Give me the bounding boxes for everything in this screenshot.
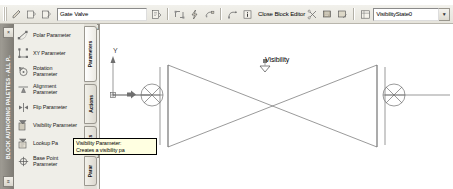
update-parameter-icon[interactable] bbox=[226, 8, 239, 21]
palette-item-rotation-parameter[interactable]: Rotation Parameter bbox=[14, 62, 84, 80]
palette-item-xy-parameter[interactable]: XY Parameter bbox=[14, 44, 84, 62]
base-point-parameter-icon bbox=[17, 155, 30, 168]
flip-parameter-icon bbox=[17, 101, 30, 114]
visibility-state-manager-icon[interactable] bbox=[359, 8, 372, 21]
palette-title-text: BLOCK AUTHORING PALETTES - ALL P.. bbox=[5, 55, 11, 159]
toolbar-separator-3 bbox=[353, 8, 355, 20]
parameter-icon[interactable] bbox=[173, 8, 186, 21]
palette-item-label: Visibility Parameter bbox=[33, 122, 77, 128]
tab-actions[interactable]: Actions bbox=[84, 84, 97, 124]
visibility-state-select[interactable]: VisibilityState0 bbox=[373, 8, 439, 21]
palette-properties-button[interactable]: ≡ bbox=[3, 176, 14, 187]
edit-block-definition-icon[interactable] bbox=[10, 8, 23, 21]
palette-item-label: Flip Parameter bbox=[33, 104, 67, 110]
palette-item-label: Alignment Parameter bbox=[33, 83, 57, 95]
make-invisible-icon[interactable] bbox=[321, 8, 334, 21]
block-name-input[interactable]: Gate Valve bbox=[57, 8, 147, 21]
alignment-parameter-icon bbox=[17, 83, 30, 96]
close-block-editor-button[interactable]: Close Block Editor bbox=[258, 11, 305, 17]
block-authoring-palettes: BLOCK AUTHORING PALETTES - ALL P.. × ≡ P… bbox=[0, 24, 100, 189]
palette-item-flip-parameter[interactable]: Flip Parameter bbox=[14, 98, 84, 116]
palette-tab-strip: Parameters Actions Sets Parar bbox=[84, 24, 97, 189]
make-visible-icon[interactable] bbox=[336, 8, 349, 21]
action-icon[interactable] bbox=[188, 8, 201, 21]
save-block-as-icon[interactable] bbox=[40, 8, 53, 21]
save-block-definition-icon[interactable] bbox=[25, 8, 38, 21]
tab-label: Parameters bbox=[88, 41, 94, 67]
toolbar-separator-2 bbox=[220, 8, 222, 20]
visibility-parameter-icon bbox=[17, 119, 30, 132]
visibility-states-icon[interactable] bbox=[306, 8, 319, 21]
authoring-palettes-icon[interactable] bbox=[150, 8, 163, 21]
palette-item-label: Base Point Parameter bbox=[33, 155, 58, 167]
palette-item-label: Polar Parameter bbox=[33, 32, 71, 38]
palette-item-alignment-parameter[interactable]: Alignment Parameter bbox=[14, 80, 84, 98]
learn-about-dynamic-blocks-icon[interactable] bbox=[241, 8, 254, 21]
palette-item-visibility-parameter[interactable]: Visibility Parameter bbox=[14, 116, 84, 134]
palette-item-label: Rotation Parameter bbox=[33, 65, 57, 77]
toolbar-drag-handle[interactable] bbox=[3, 7, 7, 21]
palette-item-list[interactable]: Polar Parameter XY Parameter bbox=[14, 24, 84, 189]
xy-parameter-icon bbox=[17, 47, 30, 60]
tab-parameter-extra[interactable]: Parar bbox=[84, 156, 97, 186]
rotation-parameter-icon bbox=[17, 65, 30, 78]
palette-close-button[interactable]: × bbox=[3, 27, 14, 38]
palette-item-polar-parameter[interactable]: Polar Parameter bbox=[14, 26, 84, 44]
palette-title-bar[interactable]: BLOCK AUTHORING PALETTES - ALL P.. bbox=[1, 24, 14, 189]
tooltip-body: Creates a visibility pa bbox=[76, 147, 154, 154]
tab-parameters[interactable]: Parameters bbox=[84, 26, 97, 82]
chevron-down-icon[interactable]: ▼ bbox=[439, 8, 450, 21]
visibility-grip-label[interactable]: Visibility bbox=[265, 56, 289, 63]
ucs-y-label: Y bbox=[113, 47, 118, 54]
polar-parameter-icon bbox=[17, 29, 30, 42]
block-editor-toolbar: Gate Valve bbox=[0, 4, 453, 24]
palette-item-label: XY Parameter bbox=[33, 50, 66, 56]
palette-item-label: Lookup Pa bbox=[33, 140, 58, 146]
tab-label: Actions bbox=[88, 95, 94, 113]
lookup-parameter-icon bbox=[17, 137, 30, 150]
toolbar-separator bbox=[167, 8, 169, 20]
define-attribute-icon[interactable] bbox=[203, 8, 216, 21]
tab-label: Parar bbox=[88, 165, 94, 177]
tooltip: Visibility Parameter: Creates a visibili… bbox=[73, 138, 157, 155]
block-editor-window: Y Visibility Gate Valve bbox=[0, 0, 453, 189]
